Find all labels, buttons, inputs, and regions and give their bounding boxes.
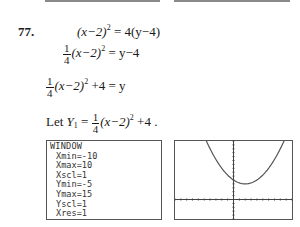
window-row-xres: Xres=1 — [50, 209, 158, 219]
calculator-graph-screen — [174, 140, 293, 220]
step3-rhs: +4 = y — [88, 78, 125, 93]
step3-lhs: (x−2) — [55, 78, 85, 93]
equation-step-1: (x−2)2 = 4(y−4) — [77, 25, 160, 38]
calculator-window-screen: WINDOW Xmin=-10 Xmax=10 Xscl=1 Ymin=-5 Y… — [46, 140, 162, 220]
step1-rhs: = 4(y−4) — [111, 24, 160, 39]
problem-number: 77. — [18, 24, 34, 40]
parabola-graph — [175, 141, 292, 219]
top-rule-right — [174, 0, 290, 2]
fraction-one-quarter: 14 — [92, 112, 100, 135]
fraction-one-quarter: 14 — [46, 76, 54, 99]
step2-rhs: = y−4 — [105, 45, 139, 60]
y1-var: Y — [67, 114, 74, 129]
step2-lhs: (x−2) — [72, 45, 102, 60]
equation-step-2: 14(x−2)2 = y−4 — [63, 43, 139, 66]
let-statement: Let Y1 = 14(x−2)2 +4 . — [46, 112, 157, 135]
equation-step-3: 14(x−2)2 +4 = y — [46, 76, 126, 99]
step1-lhs: (x−2) — [77, 24, 107, 39]
fraction-one-quarter: 14 — [63, 43, 71, 66]
top-rule-left — [45, 0, 160, 2]
